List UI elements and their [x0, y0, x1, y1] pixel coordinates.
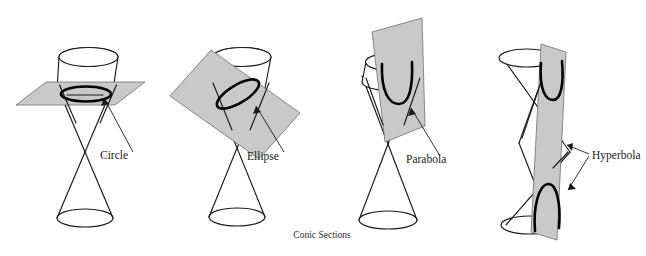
label-hyperbola: Hyperbola: [592, 149, 641, 162]
figure-caption: Conic Sections: [293, 230, 351, 240]
label-parabola: Parabola: [406, 153, 446, 165]
conic-sections-canvas: Circle Ellipse: [0, 0, 646, 256]
panel-parabola: Parabola: [359, 18, 446, 229]
circle-leader-line: [104, 98, 133, 152]
ellipse-lower-base-ellipse: [209, 208, 265, 226]
circle-upper-rim-ellipse: [59, 48, 118, 67]
label-circle: Circle: [100, 149, 128, 161]
label-ellipse: Ellipse: [247, 150, 279, 163]
parabola-leader-line: [411, 108, 440, 156]
panel-ellipse: Ellipse: [170, 48, 300, 227]
parabola-lower-base-ellipse: [359, 211, 417, 229]
panel-circle: Circle: [16, 48, 145, 228]
circle-lower-base-ellipse: [57, 209, 113, 227]
conic-sections-figure: Circle Ellipse: [0, 0, 646, 256]
panel-hyperbola: Hyperbola: [499, 44, 641, 240]
